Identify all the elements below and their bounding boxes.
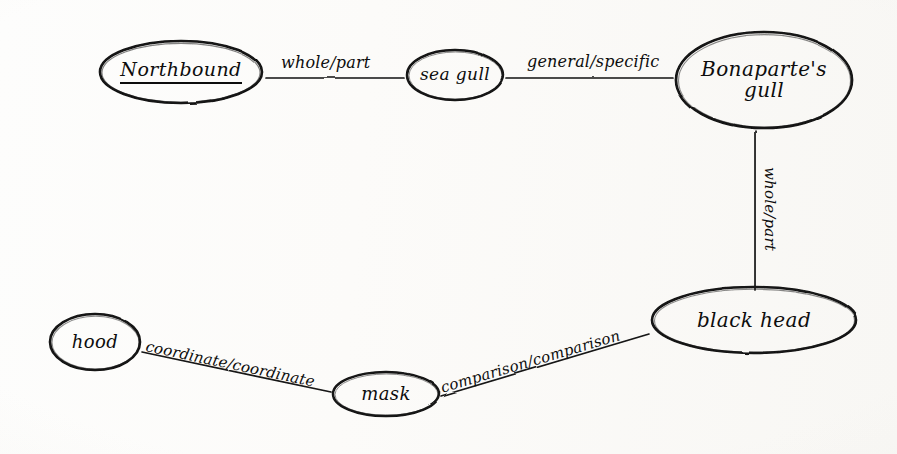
- node-hood[interactable]: hood: [47, 311, 143, 373]
- node-black-head[interactable]: black head: [648, 283, 860, 357]
- node-seagull[interactable]: sea gull: [404, 47, 506, 103]
- node-label-seagull: sea gull: [420, 66, 490, 84]
- edge-label-whole-part-vertical: whole/part: [761, 167, 779, 251]
- node-label-black-head: black head: [697, 310, 811, 331]
- node-label-hood: hood: [72, 333, 118, 352]
- diagram-canvas: Northbound sea gull Bonaparte's gull bla…: [0, 0, 897, 454]
- edge-label-general-specific: general/specific: [527, 52, 659, 71]
- node-label-northbound: Northbound: [120, 60, 241, 84]
- node-label-bonapartes-gull: Bonaparte's gull: [701, 59, 827, 101]
- node-bonapartes-gull[interactable]: Bonaparte's gull: [672, 28, 856, 132]
- node-northbound[interactable]: Northbound: [96, 37, 266, 107]
- edge-label-whole-part-top: whole/part: [281, 53, 370, 72]
- node-label-mask: mask: [361, 385, 411, 404]
- node-mask[interactable]: mask: [330, 369, 442, 419]
